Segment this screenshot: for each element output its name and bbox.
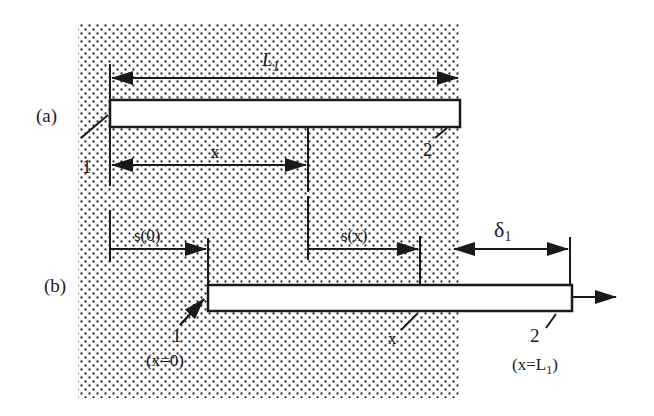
fiber-bar-b — [208, 285, 572, 311]
end-2-position-label: (x=L1) — [512, 355, 558, 377]
point-x-label-b: x — [388, 329, 397, 348]
fiber-bar-a — [110, 100, 460, 127]
displacement-0-label: s(0) — [134, 226, 160, 245]
end-2-label-b: 2 — [530, 325, 540, 346]
matrix-region — [78, 24, 460, 398]
delta-label: δ1 — [494, 217, 511, 244]
position-label-a: x — [210, 141, 220, 162]
end-1-label-a: 1 — [82, 156, 92, 177]
panel-b-label: (b) — [44, 275, 66, 297]
end-1-label-b: 1 — [172, 325, 182, 346]
fiber-pullout-diagram: (a) L1 x 1 2 (b) s(0) — [0, 0, 654, 416]
end-1-position-label: (x=0) — [146, 351, 184, 370]
panel-a-label: (a) — [36, 105, 57, 127]
end-2-leader-b — [546, 314, 556, 328]
displacement-x-label: s(x) — [341, 226, 367, 245]
end-2-label-a: 2 — [423, 139, 433, 160]
